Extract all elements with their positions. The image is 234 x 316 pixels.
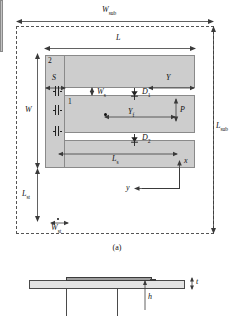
label-axis-y: y xyxy=(126,184,130,192)
label-t: t xyxy=(196,278,198,286)
patch-metal-step xyxy=(150,279,156,281)
label-s: S xyxy=(52,74,56,82)
label-l: L xyxy=(116,34,120,42)
caption-a: (a) xyxy=(0,243,234,252)
dim-arrow-y xyxy=(148,84,195,92)
diode-d1 xyxy=(130,86,139,98)
label-lst: Lst xyxy=(22,190,30,201)
label-d2: D2 xyxy=(142,134,151,145)
label-region-2: 2 xyxy=(48,57,52,65)
feed-stub xyxy=(0,0,3,52)
label-d1: D1 xyxy=(142,88,151,99)
side-view: t h xyxy=(0,266,234,316)
label-wst: Wst xyxy=(51,224,61,235)
substrate-slab xyxy=(29,280,185,289)
dim-arrow-lst xyxy=(33,168,42,222)
dim-arrow-ws xyxy=(88,87,96,96)
label-lsub: Lsub xyxy=(216,122,228,133)
axis-x-arrow xyxy=(175,160,184,170)
dim-arrow-wsub xyxy=(16,17,214,26)
label-p: P xyxy=(180,106,185,114)
label-yf: Yf xyxy=(128,108,134,119)
label-ws: Ws xyxy=(97,88,106,99)
label-wsub: Wsub xyxy=(102,6,116,17)
label-w: W xyxy=(25,106,32,114)
top-view: Wsub Lsub L W xyxy=(0,0,234,52)
axis-y-arrow xyxy=(134,184,144,193)
label-region-1: 1 xyxy=(68,98,72,106)
leader-line-left xyxy=(66,289,67,316)
axis-y-line xyxy=(142,188,180,189)
dim-arrow-w xyxy=(33,53,42,169)
capacitor-3 xyxy=(53,126,62,136)
antenna-geometry-figure: Wsub Lsub L W xyxy=(0,0,234,316)
dim-arrow-p xyxy=(172,98,180,122)
diode-d2 xyxy=(130,132,139,144)
leader-line-mid xyxy=(117,289,118,316)
label-axis-x: x xyxy=(184,157,188,165)
axis-x-line xyxy=(179,168,180,188)
patch-metal-layer xyxy=(66,277,152,281)
capacitor-2 xyxy=(53,105,62,115)
capacitor-1 xyxy=(53,86,62,96)
label-y: Y xyxy=(166,74,170,82)
dim-arrow-l xyxy=(44,44,196,53)
dim-arrow-yf xyxy=(104,110,176,118)
label-h: h xyxy=(148,293,152,301)
dim-arrow-t xyxy=(188,277,196,290)
label-ls: Ls xyxy=(112,155,119,166)
